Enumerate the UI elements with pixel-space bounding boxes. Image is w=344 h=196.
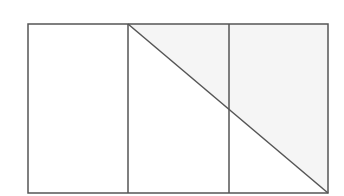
diagram-canvas xyxy=(0,0,344,196)
